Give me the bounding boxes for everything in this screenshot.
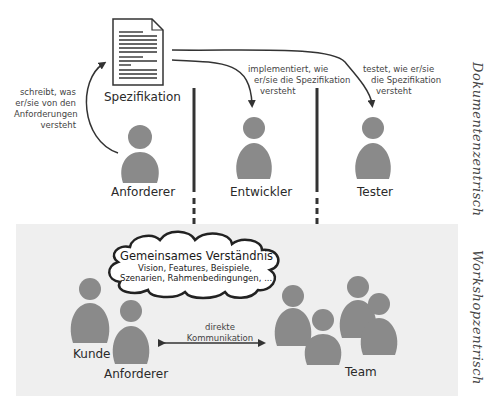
team-icon — [275, 276, 398, 365]
document-icon — [113, 19, 163, 85]
arrow-label-implements: implementiert, wie er/sie die Spezifikat… — [248, 64, 350, 97]
arrow-label-writes: schreibt, was er/sie von den Anforderung… — [14, 87, 76, 131]
role-label-kunde: Kunde — [73, 347, 110, 361]
role-label-team: Team — [345, 365, 377, 379]
person-icon-tester — [355, 117, 391, 179]
communication-label: direkte Kommunikation — [180, 322, 260, 344]
diagram-canvas — [0, 0, 500, 407]
arrow-implements — [172, 60, 252, 104]
person-icon-entwickler — [236, 117, 272, 179]
cloud-title: Gemeinsames Verständnis — [120, 249, 270, 263]
document-label: Spezifikation — [104, 90, 181, 104]
cloud-line1: Vision, Features, Beispiele, — [120, 263, 270, 273]
person-icon-kunde — [71, 278, 110, 343]
role-label-tester: Tester — [357, 185, 393, 199]
cloud-line2: Szenarien, Rahmenbedingungen, ... — [120, 273, 270, 283]
arrow-label-tests: testet, wie er/sie die Spezifikation ver… — [363, 64, 441, 97]
side-label-document-centric: Dokumentenzentrisch — [470, 62, 485, 217]
person-icon-anforderer-top — [121, 125, 159, 183]
side-label-workshop-centric: Workshopzentrisch — [470, 250, 485, 385]
role-label-anforderer-bottom: Anforderer — [104, 367, 168, 381]
role-label-anforderer: Anforderer — [111, 185, 175, 199]
person-icon-anforderer-bottom — [113, 300, 150, 364]
cloud-text: Gemeinsames Verständnis Vision, Features… — [120, 249, 270, 283]
role-label-entwickler: Entwickler — [230, 185, 292, 199]
